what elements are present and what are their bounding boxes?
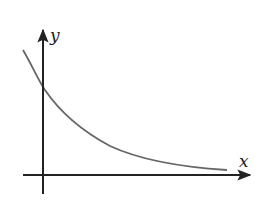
graph: y x	[0, 0, 264, 206]
y-axis-label: y	[49, 25, 60, 45]
x-axis-label: x	[239, 151, 249, 171]
decay-curve	[23, 50, 227, 170]
